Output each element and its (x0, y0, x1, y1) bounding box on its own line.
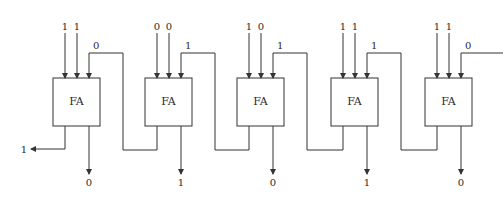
input-b-label: 0 (166, 21, 172, 32)
sum-output-label: 1 (364, 177, 370, 188)
input-b-label: 1 (446, 21, 452, 32)
carry-out-wire (401, 126, 437, 150)
sum-output-label: 0 (458, 177, 464, 188)
carry-out-wire (215, 126, 249, 150)
sum-output-label: 0 (270, 177, 276, 188)
full-adder-label: FA (347, 95, 363, 108)
sum-output-label: 1 (178, 177, 184, 188)
carry-in-label: 1 (371, 40, 377, 51)
final-carry-out-label: 1 (21, 144, 27, 155)
full-adder-label: FA (69, 95, 85, 108)
carry-in-label: 0 (465, 40, 471, 51)
input-a-label: 0 (154, 21, 160, 32)
ripple-carry-adder-diagram: FA11001FA0011FA1010FA1111FA1100 (0, 0, 503, 198)
input-b-label: 1 (352, 21, 358, 32)
input-a-label: 1 (434, 21, 440, 32)
input-a-label: 1 (246, 21, 252, 32)
full-adder-label: FA (253, 95, 269, 108)
full-adder-label: FA (161, 95, 177, 108)
carry-out-wire (123, 126, 157, 150)
input-a-label: 1 (62, 21, 68, 32)
input-a-label: 1 (340, 21, 346, 32)
carry-in-label: 0 (93, 40, 99, 51)
full-adder-label: FA (441, 95, 457, 108)
carry-in-wire (461, 53, 503, 78)
input-b-label: 0 (258, 21, 264, 32)
input-b-label: 1 (74, 21, 80, 32)
sum-output-label: 0 (86, 177, 92, 188)
final-carry-out-wire (31, 126, 65, 149)
carry-in-label: 1 (185, 40, 191, 51)
carry-out-wire (307, 126, 343, 150)
carry-in-label: 1 (277, 40, 283, 51)
